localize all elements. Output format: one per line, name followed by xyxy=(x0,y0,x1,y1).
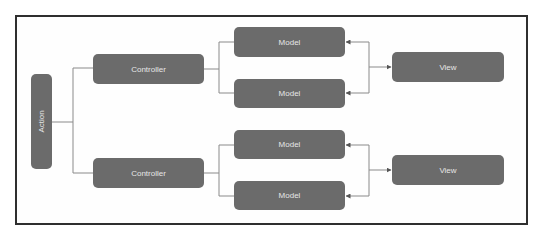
action-label: Action xyxy=(37,110,46,132)
view-label: View xyxy=(439,63,456,72)
action-node: Action xyxy=(31,74,52,169)
model-node-4: Model xyxy=(234,181,345,210)
view-node-1: View xyxy=(392,52,504,82)
controller-label: Controller xyxy=(131,169,166,178)
view-label: View xyxy=(439,166,456,175)
model-node-1: Model xyxy=(234,27,345,57)
controller-label: Controller xyxy=(131,65,166,74)
controller-node-2: Controller xyxy=(93,158,204,188)
model-node-3: Model xyxy=(234,130,345,159)
model-label: Model xyxy=(279,140,301,149)
model-label: Model xyxy=(279,89,301,98)
model-label: Model xyxy=(279,38,301,47)
model-label: Model xyxy=(279,191,301,200)
controller-node-1: Controller xyxy=(93,54,204,84)
model-node-2: Model xyxy=(234,79,345,108)
view-node-2: View xyxy=(392,155,504,185)
